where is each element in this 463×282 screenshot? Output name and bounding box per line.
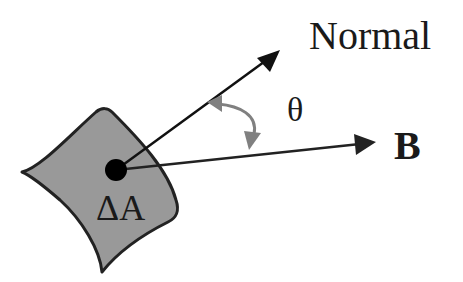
center-point <box>105 159 127 181</box>
diagram-canvas: Normal θ B ΔA <box>0 0 463 282</box>
normal-label: Normal <box>309 16 431 56</box>
normal-vector <box>116 59 268 170</box>
angle-arrowhead-field-icon <box>244 131 261 150</box>
area-delta-a-label: ΔA <box>96 190 145 226</box>
normal-arrowhead-icon <box>257 50 280 72</box>
field-arrowhead-icon <box>354 134 376 155</box>
theta-label: θ <box>287 93 303 127</box>
angle-arc <box>218 104 255 134</box>
field-b-label: B <box>394 126 421 166</box>
